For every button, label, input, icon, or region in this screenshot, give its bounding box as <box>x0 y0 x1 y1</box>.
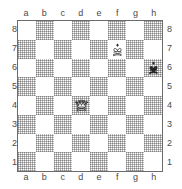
square-g8[interactable] <box>126 21 144 40</box>
file-label-e-bottom: e <box>90 172 108 183</box>
square-a8[interactable] <box>18 21 36 40</box>
file-label-f-bottom: f <box>108 172 126 183</box>
rank-label-1-right: 1 <box>167 153 172 172</box>
square-g2[interactable] <box>126 134 144 153</box>
square-d4[interactable] <box>72 96 90 115</box>
square-b6[interactable] <box>36 59 54 78</box>
square-c7[interactable] <box>54 40 72 59</box>
file-label-b: b <box>35 8 53 19</box>
square-d7[interactable] <box>72 40 90 59</box>
square-b5[interactable] <box>36 77 54 96</box>
file-coordinates-top: a b c d e f g h <box>17 5 163 19</box>
square-c3[interactable] <box>54 115 72 134</box>
square-d3[interactable] <box>72 115 90 134</box>
rank-label-4-right: 4 <box>167 96 172 115</box>
file-label-h: h <box>145 8 163 19</box>
square-g3[interactable] <box>126 115 144 134</box>
square-d6[interactable] <box>72 59 90 78</box>
square-h1[interactable] <box>144 152 162 171</box>
square-e8[interactable] <box>90 21 108 40</box>
square-e4[interactable] <box>90 96 108 115</box>
file-label-e: e <box>90 8 108 19</box>
square-d1[interactable] <box>72 152 90 171</box>
rank-coordinates-right: 8 7 6 5 4 3 2 1 <box>165 20 182 172</box>
square-h8[interactable] <box>144 21 162 40</box>
file-label-g-bottom: g <box>127 172 145 183</box>
square-h6[interactable] <box>144 59 162 78</box>
square-h3[interactable] <box>144 115 162 134</box>
square-a2[interactable] <box>18 134 36 153</box>
square-f3[interactable] <box>108 115 126 134</box>
rank-label-3-right: 3 <box>167 115 172 134</box>
square-c4[interactable] <box>54 96 72 115</box>
square-b2[interactable] <box>36 134 54 153</box>
square-e6[interactable] <box>90 59 108 78</box>
square-c8[interactable] <box>54 21 72 40</box>
square-g1[interactable] <box>126 152 144 171</box>
file-label-b-bottom: b <box>35 172 53 183</box>
piece-black-king-h6[interactable] <box>144 59 162 78</box>
file-label-c: c <box>54 8 72 19</box>
square-a1[interactable] <box>18 152 36 171</box>
square-e7[interactable] <box>90 40 108 59</box>
square-g5[interactable] <box>126 77 144 96</box>
square-e1[interactable] <box>90 152 108 171</box>
file-label-a-bottom: a <box>17 172 35 183</box>
square-c5[interactable] <box>54 77 72 96</box>
rank-label-6-right: 6 <box>167 58 172 77</box>
rank-label-2-right: 2 <box>167 134 172 153</box>
square-g6[interactable] <box>126 59 144 78</box>
square-b4[interactable] <box>36 96 54 115</box>
square-d5[interactable] <box>72 77 90 96</box>
file-label-a: a <box>17 8 35 19</box>
square-e2[interactable] <box>90 134 108 153</box>
piece-white-king-f7[interactable] <box>108 40 126 59</box>
square-f4[interactable] <box>108 96 126 115</box>
file-label-d-bottom: d <box>72 172 90 183</box>
rank-label-8-right: 8 <box>167 20 172 39</box>
file-label-c-bottom: c <box>54 172 72 183</box>
square-a4[interactable] <box>18 96 36 115</box>
square-e5[interactable] <box>90 77 108 96</box>
square-g4[interactable] <box>126 96 144 115</box>
file-coordinates-bottom: a b c d e f g h <box>17 172 163 186</box>
square-g7[interactable] <box>126 40 144 59</box>
rank-label-7-right: 7 <box>167 39 172 58</box>
square-b1[interactable] <box>36 152 54 171</box>
square-f2[interactable] <box>108 134 126 153</box>
square-b7[interactable] <box>36 40 54 59</box>
square-f8[interactable] <box>108 21 126 40</box>
square-a3[interactable] <box>18 115 36 134</box>
square-h2[interactable] <box>144 134 162 153</box>
square-b3[interactable] <box>36 115 54 134</box>
rank-label-5-right: 5 <box>167 77 172 96</box>
square-d8[interactable] <box>72 21 90 40</box>
piece-white-queen-d4[interactable] <box>72 96 90 115</box>
square-c2[interactable] <box>54 134 72 153</box>
square-d2[interactable] <box>72 134 90 153</box>
file-label-d: d <box>72 8 90 19</box>
file-label-h-bottom: h <box>145 172 163 183</box>
square-a6[interactable] <box>18 59 36 78</box>
square-a5[interactable] <box>18 77 36 96</box>
chess-board-grid[interactable] <box>17 20 163 172</box>
square-e3[interactable] <box>90 115 108 134</box>
square-h7[interactable] <box>144 40 162 59</box>
square-f6[interactable] <box>108 59 126 78</box>
square-f5[interactable] <box>108 77 126 96</box>
square-f7[interactable] <box>108 40 126 59</box>
square-c1[interactable] <box>54 152 72 171</box>
file-label-g: g <box>127 8 145 19</box>
file-label-f: f <box>108 8 126 19</box>
square-c6[interactable] <box>54 59 72 78</box>
square-a7[interactable] <box>18 40 36 59</box>
square-b8[interactable] <box>36 21 54 40</box>
chess-board-widget: a b c d e f g h 8 7 6 5 4 3 2 1 8 7 6 5 … <box>0 0 182 189</box>
square-h4[interactable] <box>144 96 162 115</box>
square-f1[interactable] <box>108 152 126 171</box>
square-h5[interactable] <box>144 77 162 96</box>
